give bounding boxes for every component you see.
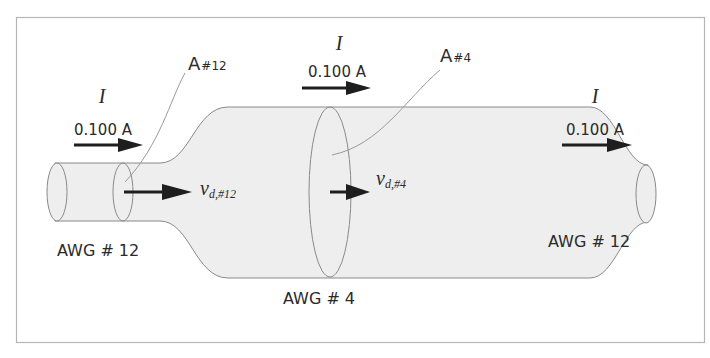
gauge-label-middle: AWG # 4 [283, 289, 355, 308]
gauge-label-right: AWG # 12 [548, 232, 630, 251]
current-value-right: 0.100 A [566, 121, 625, 139]
diagram-canvas: I 0.100 A I 0.100 A I 0.100 A A#12 A#4 v… [0, 0, 710, 358]
current-symbol-left: I [98, 85, 107, 107]
current-value-left: 0.100 A [74, 121, 133, 139]
left-end-cap [47, 163, 67, 221]
gauge-label-left: AWG # 12 [57, 241, 139, 260]
current-symbol-middle: I [335, 32, 344, 54]
current-value-middle: 0.100 A [308, 63, 367, 81]
right-end-cap [636, 165, 656, 223]
current-symbol-right: I [591, 85, 600, 107]
